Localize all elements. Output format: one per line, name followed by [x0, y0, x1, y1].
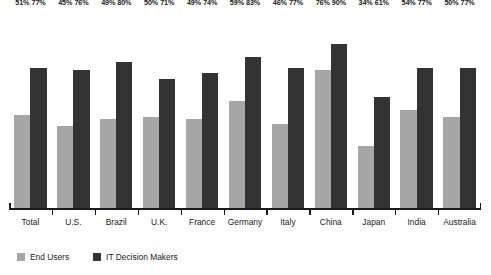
bar-it-decision-makers: 74%: [202, 73, 218, 208]
bar-column: 49%: [186, 8, 202, 208]
bar-end-users: 54%: [400, 110, 416, 208]
bar-group: 51%77%: [9, 8, 52, 208]
bar-group: 49%80%: [95, 8, 138, 208]
axis-end-tick-right: [480, 203, 482, 209]
bar-value-label: 45%: [58, 0, 72, 7]
axis-tick: [309, 209, 310, 215]
chart-legend: End UsersIT Decision Makers: [17, 252, 202, 262]
axis-tick: [266, 209, 267, 215]
x-axis-line: [9, 208, 481, 210]
bar-group: 45%76%: [52, 8, 95, 208]
bar-value-label: 61%: [375, 0, 389, 7]
bar-group: 59%83%: [224, 8, 267, 208]
legend-item-end-users[interactable]: End Users: [17, 252, 69, 262]
bar-value-label: 59%: [230, 0, 244, 7]
bar-group-bars: 45%76%: [52, 8, 95, 208]
bar-end-users: 46%: [272, 124, 288, 208]
bar-column: 50%: [143, 8, 159, 208]
bar-column: 50%: [443, 8, 459, 208]
legend-label: IT Decision Makers: [106, 252, 178, 262]
bar-column: 76%: [315, 8, 331, 208]
bar-it-decision-makers: 83%: [245, 57, 261, 208]
bar-it-decision-makers: 77%: [30, 68, 46, 208]
bar-column: 59%: [229, 8, 245, 208]
axis-tick: [352, 209, 353, 215]
bar-value-label: 50%: [144, 0, 158, 7]
category-label-brazil: Brazil: [95, 217, 138, 227]
axis-tick: [181, 209, 182, 215]
bar-column: 54%: [400, 8, 416, 208]
bar-end-users: 76%: [315, 70, 331, 208]
bar-group: 50%77%: [438, 8, 481, 208]
bar-it-decision-makers: 71%: [159, 79, 175, 208]
axis-tick: [224, 209, 225, 215]
plot-area: 51%77%45%76%49%80%50%71%49%74%59%83%46%7…: [9, 8, 481, 208]
axis-tick: [52, 209, 53, 215]
category-label-total: Total: [9, 217, 52, 227]
bar-value-label: 76%: [316, 0, 330, 7]
bar-value-label: 49%: [187, 0, 201, 7]
axis-tick: [395, 209, 396, 215]
bar-column: 77%: [460, 8, 476, 208]
legend-swatch-icon: [17, 253, 25, 261]
bar-value-label: 46%: [273, 0, 287, 7]
bar-value-label: 49%: [101, 0, 115, 7]
bar-column: 34%: [358, 8, 374, 208]
bar-column: 51%: [14, 8, 30, 208]
bar-end-users: 51%: [14, 115, 30, 208]
legend-item-it-decision-makers[interactable]: IT Decision Makers: [93, 252, 178, 262]
bar-group-bars: 34%61%: [352, 8, 395, 208]
bar-value-label: 90%: [332, 0, 346, 7]
bar-chart: 51%77%45%76%49%80%50%71%49%74%59%83%46%7…: [0, 0, 491, 275]
bar-group-bars: 76%90%: [309, 8, 352, 208]
bar-end-users: 45%: [57, 126, 73, 208]
bar-group: 54%77%: [395, 8, 438, 208]
bar-column: 61%: [374, 8, 390, 208]
category-label-india: India: [395, 217, 438, 227]
bar-end-users: 49%: [100, 119, 116, 208]
bar-value-label: 80%: [117, 0, 131, 7]
category-label-germany: Germany: [224, 217, 267, 227]
bar-group-bars: 46%77%: [266, 8, 309, 208]
category-label-italy: Italy: [266, 217, 309, 227]
bar-group-bars: 49%74%: [181, 8, 224, 208]
bar-value-label: 76%: [74, 0, 88, 7]
bar-column: 80%: [116, 8, 132, 208]
bar-it-decision-makers: 77%: [417, 68, 433, 208]
category-label-us: U.S.: [52, 217, 95, 227]
bar-group-bars: 50%71%: [138, 8, 181, 208]
bar-group-bars: 50%77%: [438, 8, 481, 208]
bar-value-label: 77%: [461, 0, 475, 7]
bar-column: 77%: [288, 8, 304, 208]
bar-it-decision-makers: 77%: [288, 68, 304, 208]
bar-column: 49%: [100, 8, 116, 208]
bar-column: 45%: [57, 8, 73, 208]
bar-group-bars: 51%77%: [9, 8, 52, 208]
bar-column: 83%: [245, 8, 261, 208]
axis-tick: [95, 209, 96, 215]
axis-end-tick-left: [9, 203, 11, 209]
bar-end-users: 49%: [186, 119, 202, 208]
axis-tick: [138, 209, 139, 215]
bar-end-users: 50%: [443, 117, 459, 208]
bar-it-decision-makers: 90%: [331, 44, 347, 208]
category-label-japan: Japan: [352, 217, 395, 227]
bar-value-label: 51%: [15, 0, 29, 7]
bar-value-label: 71%: [160, 0, 174, 7]
bar-column: 46%: [272, 8, 288, 208]
bar-group: 46%77%: [266, 8, 309, 208]
bar-group: 49%74%: [181, 8, 224, 208]
bar-it-decision-makers: 76%: [73, 70, 89, 208]
bar-value-label: 50%: [444, 0, 458, 7]
bar-value-label: 74%: [203, 0, 217, 7]
bar-column: 77%: [30, 8, 46, 208]
bar-it-decision-makers: 61%: [374, 97, 390, 208]
bar-value-label: 77%: [289, 0, 303, 7]
bar-group-bars: 49%80%: [95, 8, 138, 208]
bar-group: 76%90%: [309, 8, 352, 208]
bar-value-label: 83%: [246, 0, 260, 7]
legend-swatch-icon: [93, 253, 101, 261]
bar-column: 74%: [202, 8, 218, 208]
bar-it-decision-makers: 77%: [460, 68, 476, 208]
bar-end-users: 50%: [143, 117, 159, 208]
